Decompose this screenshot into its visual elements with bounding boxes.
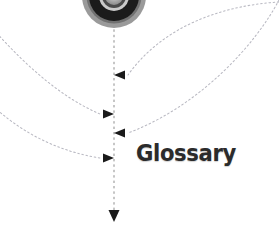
concentric-disc-graphic	[82, 0, 146, 28]
glossary-label: Glossary	[136, 142, 236, 165]
connector-arc-2	[0, 30, 100, 114]
arrow-left-3	[114, 129, 125, 138]
connector-arc-1	[128, 2, 279, 75]
diagram-graphics	[0, 0, 279, 234]
connector-arcs	[0, 0, 279, 158]
connector-arc-3	[128, 0, 279, 133]
arrow-right-4	[103, 154, 114, 163]
connector-arc-4	[0, 107, 100, 158]
arrow-down-terminal	[109, 210, 120, 222]
arrow-left-1	[114, 71, 125, 80]
diagram-canvas: Glossary	[0, 0, 279, 234]
arrow-right-2	[103, 110, 114, 119]
